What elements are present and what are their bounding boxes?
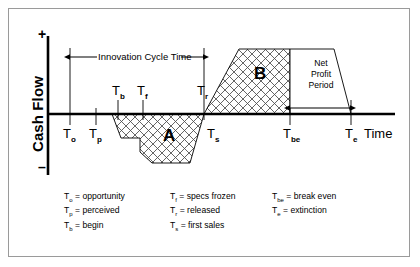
net-profit-period-line-1: Net <box>296 58 346 69</box>
region-b-shape <box>204 49 290 114</box>
legend-tbe-sub: be <box>277 197 284 203</box>
legend-tb-sub: b <box>69 226 72 232</box>
legend-to-sub: o <box>69 197 72 203</box>
milestone-tf-sub: f <box>145 92 148 101</box>
legend-item-tbe: Tbe = break even <box>272 190 336 204</box>
legend-ts-text: = first sales <box>181 220 225 230</box>
legend-item-tr: Tr = released <box>170 204 235 218</box>
milestone-label-te: Te <box>345 127 357 144</box>
milestone-ts-sym: T <box>207 126 215 141</box>
milestone-tb-sub: b <box>120 92 125 101</box>
legend-to-text: = opportunity <box>75 191 125 201</box>
legend-item-te: Te = extinction <box>272 204 336 218</box>
legend-tr-sub: r <box>175 211 177 217</box>
legend-tp-text: = perceived <box>75 205 120 215</box>
milestone-tp-sym: T <box>89 126 97 141</box>
milestone-tbe-sub: be <box>291 135 300 144</box>
legend-te-text: = extinction <box>283 205 327 215</box>
legend-ts-sub: s <box>175 226 178 232</box>
legend-column-1: To = opportunity Tp = perceived Tb = beg… <box>64 190 125 233</box>
milestone-to-sub: o <box>71 135 76 144</box>
milestone-label-tf: Tf <box>137 84 148 101</box>
x-axis-label: Time <box>364 127 392 140</box>
legend-tf-sub: f <box>175 197 177 203</box>
net-profit-period-label: Net Profit Period <box>296 58 346 91</box>
legend-tr-text: = released <box>180 205 220 215</box>
milestone-to-sym: T <box>63 126 71 141</box>
legend-item-to: To = opportunity <box>64 190 125 204</box>
milestone-label-ts: Ts <box>207 127 219 144</box>
innovation-cash-flow-figure: Cash Flow + – Innovation Cycle Time Net … <box>0 0 420 267</box>
milestone-te-sub: e <box>353 135 357 144</box>
milestone-ts-sub: s <box>215 135 219 144</box>
milestone-tf-sym: T <box>137 83 145 98</box>
legend-item-tb: Tb = begin <box>64 219 125 233</box>
milestone-label-tr: Tr <box>197 84 208 101</box>
milestone-label-tp: Tp <box>89 127 102 144</box>
legend-tf-text: = specs frozen <box>179 191 235 201</box>
legend-column-2: Tf = specs frozen Tr = released Ts = fir… <box>170 190 235 233</box>
legend-item-tp: Tp = perceived <box>64 204 125 218</box>
net-profit-period-line-2: Profit <box>296 69 346 80</box>
net-profit-period-line-3: Period <box>296 80 346 91</box>
milestone-tp-sub: p <box>97 135 102 144</box>
milestone-label-tbe: Tbe <box>283 127 300 144</box>
milestone-tr-sub: r <box>205 92 208 101</box>
innovation-cycle-time-label: Innovation Cycle Time <box>98 52 191 62</box>
legend-tbe-text: = break even <box>286 191 336 201</box>
milestone-te-sym: T <box>345 126 353 141</box>
y-axis-minus-sign: – <box>38 160 46 174</box>
milestone-label-tb: Tb <box>112 84 125 101</box>
legend-te-sub: e <box>277 211 280 217</box>
legend-column-3: Tbe = break even Te = extinction <box>272 190 336 219</box>
region-a-shape <box>112 114 204 163</box>
y-axis-plus-sign: + <box>38 27 46 41</box>
legend-tp-sub: p <box>69 211 72 217</box>
y-axis-label: Cash Flow <box>30 76 45 152</box>
milestone-label-to: To <box>63 127 76 144</box>
milestone-tbe-sym: T <box>283 126 291 141</box>
legend-item-ts: Ts = first sales <box>170 219 235 233</box>
region-b-label: B <box>254 65 266 82</box>
legend-tb-text: = begin <box>75 220 103 230</box>
region-a-label: A <box>163 127 175 144</box>
milestone-tb-sym: T <box>112 83 120 98</box>
milestone-tr-sym: T <box>197 83 205 98</box>
legend-item-tf: Tf = specs frozen <box>170 190 235 204</box>
